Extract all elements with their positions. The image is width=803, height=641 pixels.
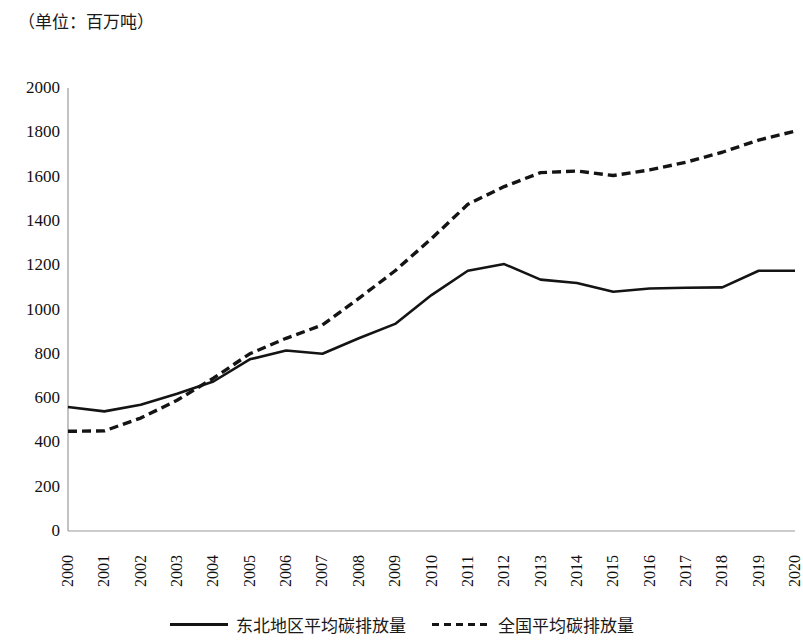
x-axis-tick-2017: 2017	[678, 555, 694, 587]
y-axis-tick-600: 600	[8, 389, 60, 406]
y-axis-tick-1800: 1800	[8, 123, 60, 140]
x-axis-tick-2001: 2001	[96, 555, 112, 587]
y-axis-tick-1400: 1400	[8, 212, 60, 229]
x-axis-tick-2005: 2005	[242, 555, 258, 587]
y-axis-tick-1600: 1600	[8, 168, 60, 185]
x-axis-tick-2002: 2002	[133, 555, 149, 587]
legend-entry-national: 全国平均碳排放量	[432, 612, 634, 637]
x-axis-tick-2003: 2003	[169, 555, 185, 587]
x-axis-tick-2015: 2015	[605, 555, 621, 587]
y-axis-tick-200: 200	[8, 478, 60, 495]
legend-label-national: 全国平均碳排放量	[498, 612, 634, 637]
y-axis-tick-800: 800	[8, 345, 60, 362]
y-axis-tick-400: 400	[8, 433, 60, 450]
x-axis-tick-2010: 2010	[424, 555, 440, 587]
y-axis-tick-1000: 1000	[8, 301, 60, 318]
x-axis-tick-2012: 2012	[496, 555, 512, 587]
y-axis-tick-2000: 2000	[8, 79, 60, 96]
series-line-northeast	[68, 264, 795, 411]
x-axis-tick-2016: 2016	[642, 555, 658, 587]
chart-figure: （单位：百万吨） 2000180016001400120010008006004…	[0, 0, 803, 641]
plot-area: 2000180016001400120010008006004002000 20…	[0, 0, 803, 641]
x-axis-tick-2018: 2018	[714, 555, 730, 587]
x-axis-tick-2013: 2013	[533, 555, 549, 587]
x-axis-tick-2007: 2007	[314, 555, 330, 587]
chart-legend: 东北地区平均碳排放量 全国平均碳排放量	[0, 607, 803, 641]
axis-lines	[68, 88, 795, 531]
series-line-national	[68, 131, 795, 431]
legend-entry-northeast: 东北地区平均碳排放量	[170, 612, 406, 637]
x-axis-tick-2006: 2006	[278, 555, 294, 587]
x-axis-tick-2011: 2011	[460, 556, 476, 587]
x-axis-tick-2009: 2009	[387, 555, 403, 587]
x-axis-tick-2014: 2014	[569, 555, 585, 587]
y-axis-tick-0: 0	[8, 522, 60, 539]
legend-label-northeast: 东北地区平均碳排放量	[236, 612, 406, 637]
y-axis-tick-1200: 1200	[8, 256, 60, 273]
dashed-line-swatch	[432, 617, 490, 631]
x-axis-tick-2020: 2020	[787, 555, 803, 587]
x-axis-tick-2008: 2008	[351, 555, 367, 587]
solid-line-swatch	[170, 617, 228, 631]
x-axis-tick-2000: 2000	[60, 555, 76, 587]
x-axis-tick-2019: 2019	[751, 555, 767, 587]
x-axis-tick-2004: 2004	[205, 555, 221, 587]
series-layer	[68, 131, 795, 431]
line-chart-canvas	[0, 0, 803, 641]
